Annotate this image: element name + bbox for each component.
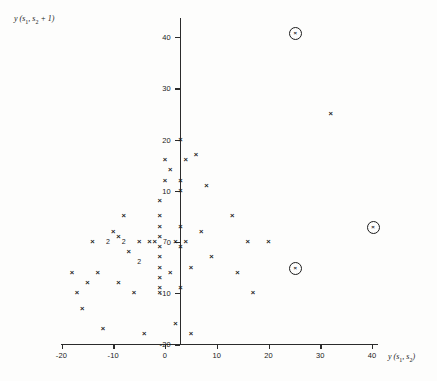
data-point-marker xyxy=(203,183,209,189)
y-tick-label-40: 40 xyxy=(131,33,171,42)
x-tick--10 xyxy=(113,344,114,349)
data-point-marker xyxy=(266,239,272,245)
x-axis-title-suffix: ) xyxy=(412,352,415,361)
data-point-marker xyxy=(157,265,163,271)
data-point-marker xyxy=(178,178,184,184)
y-axis-title-prefix: y (s xyxy=(14,14,25,23)
x-tick-label-20: 20 xyxy=(249,351,289,360)
data-point-marker xyxy=(121,213,127,219)
data-point-marker xyxy=(183,157,189,163)
data-point-marker xyxy=(90,239,96,245)
data-point-marker xyxy=(167,167,173,173)
data-point-count-label: 2 xyxy=(119,238,129,246)
data-point-marker xyxy=(209,254,215,260)
data-point-marker xyxy=(198,229,204,235)
data-point-marker xyxy=(100,326,106,332)
data-point-marker xyxy=(157,290,163,296)
data-point-marker xyxy=(172,321,178,327)
data-point-marker xyxy=(167,270,173,276)
data-point-count-label: 7 xyxy=(160,238,170,246)
x-tick-label-30: 30 xyxy=(300,351,340,360)
x-tick-label--10: -10 xyxy=(93,351,133,360)
x-tick-30 xyxy=(320,344,321,349)
data-point-marker xyxy=(69,270,75,276)
data-point-marker xyxy=(157,213,163,219)
data-point-marker xyxy=(328,111,334,117)
data-point-marker xyxy=(178,188,184,194)
x-tick-0 xyxy=(165,344,166,349)
x-tick-label--20: -20 xyxy=(42,351,82,360)
x-tick-20 xyxy=(269,344,270,349)
data-point-marker xyxy=(245,239,251,245)
y-tick-label-30: 30 xyxy=(131,84,171,93)
data-point-marker xyxy=(250,290,256,296)
data-point-count-label: 2 xyxy=(134,258,144,266)
y-tick--20 xyxy=(175,344,180,345)
outlier-marker xyxy=(289,27,302,40)
y-tick--10 xyxy=(175,293,180,294)
data-point-marker xyxy=(178,285,184,291)
y-tick-40 xyxy=(175,37,180,38)
scatter-plot-figure: y (s1, s2 + 1) y (s1, s2) -20-1001020304… xyxy=(0,0,437,381)
data-point-marker xyxy=(141,331,147,337)
x-tick-10 xyxy=(217,344,218,349)
x-tick-label-40: 40 xyxy=(352,351,392,360)
data-point-marker xyxy=(178,224,184,230)
y-tick-label-20: 20 xyxy=(131,136,171,145)
data-point-marker xyxy=(188,331,194,337)
x-tick--20 xyxy=(62,344,63,349)
y-tick-label--10: -10 xyxy=(131,289,171,298)
data-point-count-label: 2 xyxy=(103,238,113,246)
y-tick-label-10: 10 xyxy=(131,187,171,196)
data-point-marker xyxy=(178,137,184,143)
y-axis-title: y (s1, s2 + 1) xyxy=(14,14,55,25)
data-point-marker xyxy=(229,213,235,219)
outlier-marker xyxy=(289,262,302,275)
data-point-marker xyxy=(126,249,132,255)
data-point-marker xyxy=(84,280,90,286)
data-point-marker xyxy=(131,290,137,296)
data-point-marker xyxy=(183,239,189,245)
data-point-marker xyxy=(115,280,121,286)
outlier-marker xyxy=(367,221,380,234)
data-point-marker xyxy=(157,198,163,204)
data-point-marker xyxy=(193,152,199,158)
data-point-marker xyxy=(188,265,194,271)
y-tick-30 xyxy=(175,88,180,89)
x-axis-title: y (s1, s2) xyxy=(388,352,415,363)
data-point-marker xyxy=(157,254,163,260)
x-axis-line xyxy=(61,344,378,345)
data-point-marker xyxy=(74,290,80,296)
data-point-marker xyxy=(79,306,85,312)
data-point-marker xyxy=(95,270,101,276)
data-point-marker xyxy=(162,157,168,163)
data-point-marker xyxy=(136,239,142,245)
data-point-marker xyxy=(234,270,240,276)
data-point-marker xyxy=(157,275,163,281)
x-tick-label-0: 0 xyxy=(145,351,185,360)
data-point-marker xyxy=(162,178,168,184)
x-tick-label-10: 10 xyxy=(197,351,237,360)
x-tick-40 xyxy=(372,344,373,349)
data-point-marker xyxy=(157,224,163,230)
y-axis-title-suffix: + 1) xyxy=(38,14,54,23)
